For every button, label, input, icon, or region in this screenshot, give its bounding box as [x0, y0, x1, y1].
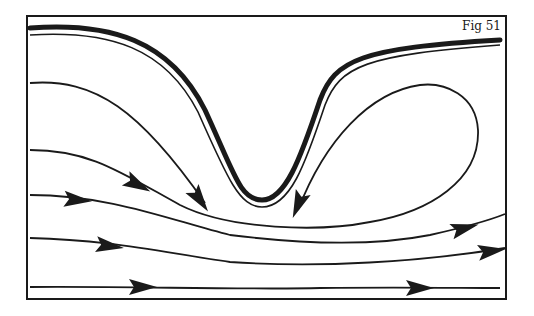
fig-51-diagram: Fig 51 [0, 0, 534, 316]
flow-arrow-icon [185, 184, 214, 216]
streamline-canvas [0, 0, 534, 316]
streamline-line-c [30, 195, 505, 243]
streamline-wall-inner [30, 34, 500, 207]
flow-arrow-icon [449, 217, 480, 240]
flow-arrow-icon [285, 189, 310, 221]
trough-boundary-wall [30, 27, 500, 200]
streamline-line-a [30, 83, 205, 203]
flow-arrow-icon [63, 191, 92, 209]
